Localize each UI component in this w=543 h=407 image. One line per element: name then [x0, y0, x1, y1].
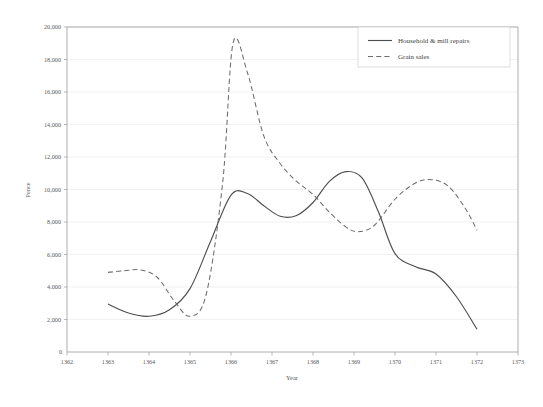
x-tick-label: 1372 [471, 358, 483, 365]
x-tick-label: 1370 [389, 358, 401, 365]
series-paths [108, 38, 477, 329]
y-axis-tick-group: 2,0004,0006,0008,00010,00012,00014,00016… [44, 23, 67, 323]
x-tick-label: 1373 [512, 358, 524, 365]
x-tick-label: 1371 [430, 358, 442, 365]
y-tick-label: 14,000 [44, 121, 61, 128]
x-tick-label: 1364 [143, 358, 155, 365]
series-line-household-mill-repairs [108, 171, 477, 329]
x-axis-tick-group: 1362136313641365136613671368136913701371… [61, 352, 524, 365]
x-tick-label: 1363 [102, 358, 114, 365]
y-axis-title: Pence [24, 182, 31, 197]
x-tick-label: 1369 [348, 358, 360, 365]
legend-label-grain: Grain sales [398, 53, 430, 61]
x-tick-label: 1365 [184, 358, 196, 365]
y-tick-label: 12,000 [44, 153, 61, 160]
y-tick-label: 8,000 [47, 218, 61, 225]
y-tick-label: 16,000 [44, 88, 61, 95]
chart-figure: 2,0004,0006,0008,00010,00012,00014,00016… [0, 0, 543, 407]
legend-background [358, 27, 510, 67]
y-tick-label: 4,000 [47, 283, 61, 290]
y-tick-label: 18,000 [44, 56, 61, 63]
chart-legend[interactable]: Household & mill repairs Grain sales [358, 27, 510, 67]
y-tick-label: 20,000 [44, 23, 61, 30]
y-tick-label: 6,000 [47, 251, 61, 258]
x-tick-label: 1366 [225, 358, 237, 365]
x-axis-title: Year [286, 374, 299, 381]
x-tick-label: 1367 [266, 358, 278, 365]
series-line-grain-sales [108, 38, 477, 316]
line-chart: 2,0004,0006,0008,00010,00012,00014,00016… [0, 0, 543, 407]
y-axis-origin-label: 0 [59, 348, 62, 355]
y-tick-label: 2,000 [47, 316, 61, 323]
x-tick-label: 1362 [61, 358, 73, 365]
x-tick-label: 1368 [307, 358, 319, 365]
gridlines [67, 27, 518, 320]
y-tick-label: 10,000 [44, 186, 61, 193]
legend-label-household: Household & mill repairs [398, 37, 470, 45]
